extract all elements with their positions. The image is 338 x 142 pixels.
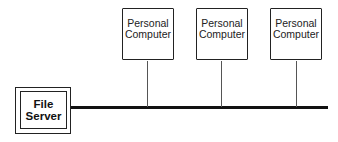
pc-connector-2 [221,61,222,107]
pc-label-line2: Computer [199,29,245,40]
file-server-label-box: File Server [20,91,67,129]
pc-connector-3 [296,61,297,107]
file-server-node: File Server [15,87,71,134]
pc-label-line2: Computer [273,29,319,40]
pc-label-line2: Computer [125,29,171,40]
file-server-label-line1: File [26,98,62,110]
personal-computer-node-3: Personal Computer [270,8,322,60]
network-bus-line [70,106,328,109]
personal-computer-node-2: Personal Computer [196,8,248,60]
pc-connector-1 [147,61,148,107]
personal-computer-node-1: Personal Computer [122,8,174,60]
file-server-label-line2: Server [26,110,62,122]
